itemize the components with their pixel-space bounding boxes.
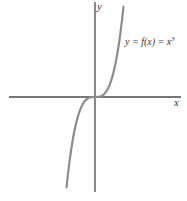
equation-exponent: 3	[170, 35, 175, 43]
cubic-function-graph: y x y = f(x) = x3	[0, 0, 187, 201]
equation-label: y = f(x) = x3	[124, 35, 175, 48]
x-axis-label: x	[173, 96, 179, 108]
y-axis-label: y	[96, 0, 102, 12]
equation-text: y = f(x) = x	[124, 36, 172, 48]
